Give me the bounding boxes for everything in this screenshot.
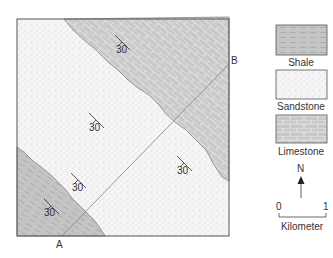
legend-sandstone-swatch <box>276 70 327 99</box>
scale-bar <box>279 213 326 217</box>
scale-start-label: 0 <box>276 201 282 212</box>
scale-end-label: 1 <box>323 201 329 212</box>
dip-label: 30 <box>177 165 188 176</box>
dip-label: 30 <box>72 182 83 193</box>
legend-shale-label: Shale <box>266 57 333 68</box>
geologic-map-svg <box>0 0 333 258</box>
dip-label: 30 <box>44 207 55 218</box>
point-a-label: A <box>56 239 63 250</box>
point-b-label: B <box>231 55 238 66</box>
legend-limestone-label: Limestone <box>266 146 333 157</box>
dip-label: 30 <box>89 122 100 133</box>
legend-limestone-swatch <box>276 115 327 143</box>
scale-unit-label: Kilometer <box>267 221 333 232</box>
north-label: N <box>297 163 304 174</box>
dip-label: 30 <box>116 44 127 55</box>
legend-shale-swatch <box>276 25 327 55</box>
legend-sandstone-label: Sandstone <box>266 101 333 112</box>
north-arrow-icon <box>298 176 305 184</box>
